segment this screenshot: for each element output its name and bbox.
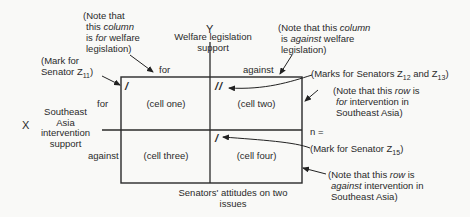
annotation-text: ): [400, 143, 403, 154]
arrow-z11: [102, 76, 120, 85]
y-axis-label-line1: Welfare legislation: [168, 31, 258, 42]
subscript: 12: [403, 74, 411, 81]
annotation-text: is: [410, 85, 420, 96]
annotation-text: welfare: [107, 32, 140, 43]
annotation-mark-z11: (Mark for Senator Z11): [41, 55, 93, 77]
annotation-line: legislation): [278, 44, 370, 55]
x-axis-label-line: support: [38, 139, 93, 150]
annotation-line: is for welfare: [83, 32, 140, 43]
annotation-text: intervention in: [347, 96, 409, 107]
annotation-text: welfare: [321, 33, 354, 44]
tally-mark-cell-one: /: [125, 80, 129, 92]
annotation-emphasis: against: [331, 180, 362, 191]
annotation-emphasis: column: [103, 21, 134, 32]
annotation-text: is: [405, 169, 415, 180]
annotation-emphasis: for: [96, 32, 107, 43]
tally-mark-cell-four: /: [215, 132, 219, 144]
cell-four: (cell four): [211, 150, 302, 161]
annotation-line: (Note that: [83, 10, 140, 21]
arrow-row-against: [303, 168, 326, 174]
annotation-text: (Note that this: [333, 85, 395, 96]
annotation-line: for intervention in: [333, 96, 420, 107]
annotation-line: is against welfare: [278, 33, 370, 44]
annotation-text: (Marks for Senators Z: [311, 68, 403, 79]
annotation-column-against: (Note that this column is against welfar…: [278, 22, 370, 55]
tally-mark-cell-two: //: [215, 80, 223, 92]
annotation-emphasis: row: [390, 169, 405, 180]
caption-line1: Senators' attitudes on two: [148, 187, 318, 198]
annotation-column-for: (Note that this column is for welfare le…: [83, 10, 140, 54]
annotation-row-against: (Note that this row is against intervent…: [328, 169, 423, 202]
total-n-label: n =: [310, 126, 323, 137]
annotation-line: (Note that this row is: [328, 169, 423, 180]
annotation-text: (Note that this: [328, 169, 390, 180]
annotation-line: legislation): [83, 43, 140, 54]
annotation-row-for: (Note that this row is for intervention …: [333, 85, 420, 118]
x-axis-letter: X: [22, 120, 29, 131]
annotation-line: (Note that this column: [278, 22, 370, 33]
caption-line2: issues: [148, 198, 318, 209]
x-axis-label-line: intervention: [38, 128, 93, 139]
annotation-emphasis: for: [336, 96, 347, 107]
annotation-text: ): [445, 68, 448, 79]
subscript: 15: [392, 149, 400, 156]
column-header-against: against: [243, 64, 274, 75]
annotation-text: Senator Z: [41, 66, 83, 77]
annotation-line: Southeast Asia): [333, 107, 420, 118]
annotation-mark-z15: (Mark for Senator Z15): [310, 143, 403, 154]
cell-one: (cell one): [122, 98, 210, 109]
x-axis-label-line: Southeast: [38, 107, 93, 118]
row-header-against: against: [88, 150, 119, 161]
annotation-marks-z12-z13: (Marks for Senators Z12 and Z13): [311, 68, 449, 79]
arrow-col-against: [280, 55, 292, 74]
diagram-caption: Senators' attitudes on two issues: [148, 187, 318, 209]
annotation-text: this: [86, 21, 103, 32]
annotation-emphasis: row: [395, 85, 410, 96]
annotation-text: intervention in: [362, 180, 424, 191]
column-header-for: for: [159, 64, 170, 75]
x-axis-label: Southeast Asia intervention support: [38, 107, 93, 149]
annotation-line: this column: [83, 21, 140, 32]
annotation-text: is: [86, 32, 96, 43]
annotation-text: (Note that this: [278, 22, 340, 33]
annotation-line: Senator Z11): [41, 66, 93, 77]
annotation-text: ): [90, 66, 93, 77]
annotation-emphasis: column: [340, 22, 371, 33]
arrow-z15: [223, 137, 310, 148]
subscript: 11: [83, 72, 90, 79]
annotation-line: against intervention in: [328, 180, 423, 191]
y-axis-label: Welfare legislation support: [168, 31, 258, 53]
annotation-line: (Mark for: [41, 55, 93, 66]
annotation-line: (Note that this row is: [333, 85, 420, 96]
annotation-line: Southeast Asia): [328, 191, 423, 202]
cell-three: (cell three): [122, 150, 210, 161]
annotation-text: and Z: [411, 68, 438, 79]
arrow-row-for: [305, 90, 318, 101]
annotation-text: (Mark for Senator Z: [310, 143, 392, 154]
annotation-text: is: [281, 33, 291, 44]
annotation-emphasis: against: [291, 33, 322, 44]
row-header-for: for: [97, 98, 108, 109]
cell-two: (cell two): [211, 98, 302, 109]
y-axis-label-line2: support: [168, 42, 258, 53]
arrow-col-for: [130, 55, 153, 72]
